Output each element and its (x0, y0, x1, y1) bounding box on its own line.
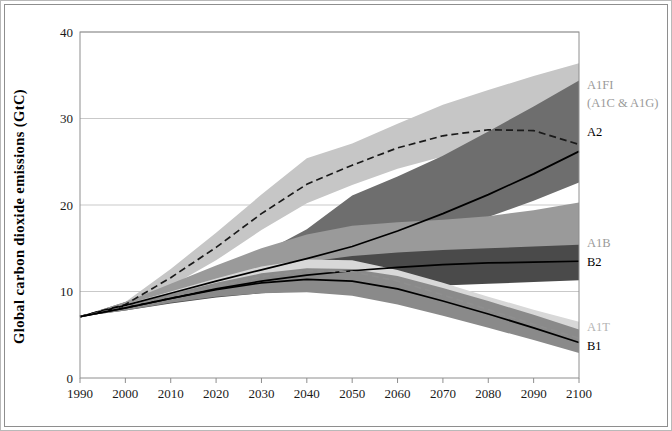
x-tick-label: 2070 (430, 386, 456, 401)
figure-frame: Global carbon dioxide emissions (GtC) 01… (0, 0, 672, 431)
y-tick-label: 20 (60, 198, 73, 213)
x-tick-label: 2030 (248, 386, 274, 401)
x-tick-label: 2060 (385, 386, 411, 401)
y-tick-label: 30 (60, 111, 73, 126)
y-tick-label: 10 (60, 284, 73, 299)
scenario-label-a1fi2: (A1C & A1G) (587, 96, 659, 110)
x-tick-label: 2000 (112, 386, 138, 401)
x-tick-label: 1990 (67, 386, 93, 401)
y-tick-label: 0 (67, 371, 74, 386)
emissions-scenario-chart: 0102030401990200020102020203020402050206… (1, 1, 672, 431)
y-tick-label: 40 (60, 25, 73, 40)
scenario-label-a1t: A1T (587, 320, 610, 334)
x-tick-label: 2090 (521, 386, 547, 401)
x-tick-label: 2020 (203, 386, 229, 401)
scenario-label-b2: B2 (587, 255, 602, 269)
x-tick-label: 2080 (475, 386, 501, 401)
x-tick-label: 2100 (566, 386, 592, 401)
scenario-label-a1fi: A1FI (587, 78, 613, 92)
scenario-label-a2: A2 (587, 125, 602, 139)
scenario-label-a1b: A1B (587, 236, 611, 250)
x-tick-label: 2040 (294, 386, 320, 401)
scenario-label-b1: B1 (587, 339, 602, 353)
x-tick-label: 2050 (339, 386, 365, 401)
x-tick-label: 2010 (158, 386, 184, 401)
